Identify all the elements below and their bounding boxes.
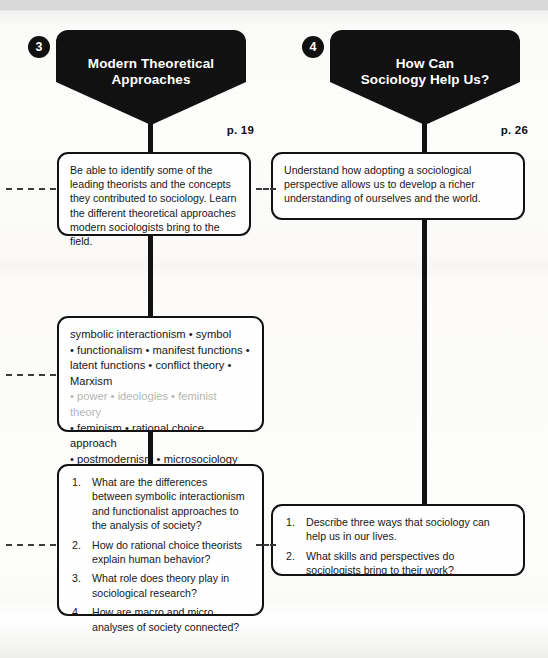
column-title: How Can Sociology Help Us? <box>330 56 520 88</box>
dashed-connector-left-keywords <box>6 374 56 376</box>
questions-list: Describe three ways that sociology can h… <box>284 515 511 578</box>
objective-text: Understand how adopting a sociological p… <box>284 163 511 206</box>
question-item: How do rational choice theorists explain… <box>70 538 250 567</box>
column-number-badge: 4 <box>302 36 324 58</box>
connector-objective-to-questions <box>422 220 427 504</box>
column-number-badge: 3 <box>28 36 50 58</box>
objective-box: Be able to identify some of the leading … <box>57 152 251 236</box>
column-modern-theoretical-approaches: 3 Modern Theoretical Approaches p. 19 Be… <box>0 0 274 658</box>
objective-box: Understand how adopting a sociological p… <box>271 152 525 220</box>
question-item: What are the differences between symboli… <box>70 475 250 533</box>
connector-objective-to-keywords <box>148 236 153 316</box>
dashed-connector-left-questions <box>6 544 56 546</box>
keyword-line: • functionalism • manifest functions • <box>70 343 250 359</box>
keywords-box: symbolic interactionism • symbol • funct… <box>57 316 264 432</box>
column-header-banner: Modern Theoretical Approaches <box>56 30 246 125</box>
keyword-line-faded: • power • ideologies • feminist theory <box>70 389 250 420</box>
question-item: How are macro and micro analyses of soci… <box>70 605 250 634</box>
page-reference: p. 26 <box>501 124 528 136</box>
questions-box: Describe three ways that sociology can h… <box>271 504 525 576</box>
dashed-connector-left-objective <box>6 188 56 190</box>
page-reference: p. 19 <box>227 124 254 136</box>
keyword-line: symbolic interactionism • symbol <box>70 327 250 343</box>
keyword-line: latent functions • conflict theory • Mar… <box>70 358 250 389</box>
connector-banner-to-objective <box>148 118 153 152</box>
column-how-can-sociology-help-us: 4 How Can Sociology Help Us? p. 26 Under… <box>274 0 548 658</box>
question-item: Describe three ways that sociology can h… <box>284 515 511 544</box>
column-title: Modern Theoretical Approaches <box>56 56 246 88</box>
connector-keywords-to-questions <box>148 432 153 464</box>
objective-text: Be able to identify some of the leading … <box>70 163 237 248</box>
dashed-connector-between-questions <box>256 544 276 546</box>
questions-list: What are the differences between symboli… <box>70 475 250 634</box>
connector-banner-to-objective <box>422 118 427 152</box>
question-item: What skills and perspectives do sociolog… <box>284 549 511 578</box>
dashed-connector-between-objectives <box>256 188 276 190</box>
keyword-line: • feminism • rational choice approach <box>70 421 250 452</box>
column-header-banner: How Can Sociology Help Us? <box>330 30 520 125</box>
question-item: What role does theory play in sociologic… <box>70 571 250 600</box>
questions-box: What are the differences between symboli… <box>57 464 264 616</box>
